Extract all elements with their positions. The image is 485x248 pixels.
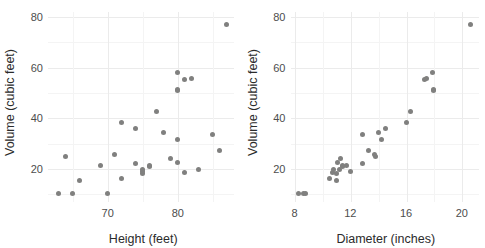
- data-point: [70, 191, 75, 196]
- gridline-major-vertical: [462, 12, 463, 202]
- gridline-minor-horizontal: [48, 144, 234, 145]
- x-axis-tick-labels: 7080: [48, 207, 234, 221]
- data-point: [133, 126, 138, 131]
- x-tick-label: 80: [163, 207, 193, 219]
- data-point: [63, 154, 68, 159]
- data-point: [327, 176, 332, 181]
- x-axis-title: Diameter (inches): [243, 232, 485, 246]
- data-point: [98, 163, 103, 168]
- data-point: [404, 120, 409, 125]
- data-point: [334, 178, 339, 183]
- data-point: [360, 161, 365, 166]
- gridline-major-horizontal: [48, 68, 234, 69]
- data-point: [468, 22, 473, 27]
- gridline-major-horizontal: [48, 17, 234, 18]
- data-point: [196, 167, 201, 172]
- y-axis-tick-labels: 20406080: [0, 12, 43, 202]
- gridline-major-vertical: [407, 12, 408, 202]
- data-point: [175, 137, 180, 142]
- y-tick-label: 40: [260, 113, 286, 124]
- gridline-minor-horizontal: [48, 42, 234, 43]
- data-point: [430, 70, 435, 75]
- data-point: [379, 137, 384, 142]
- gridline-minor-horizontal: [291, 144, 479, 145]
- data-point: [366, 148, 371, 153]
- plot-area-diameter: [291, 12, 479, 202]
- data-point: [360, 132, 365, 137]
- gridline-major-horizontal: [48, 118, 234, 119]
- figure-scatter-panels: Volume (cubic feet) 20406080 7080 Height…: [0, 0, 485, 248]
- data-point: [348, 169, 353, 174]
- data-point: [189, 76, 194, 81]
- gridline-major-horizontal: [291, 118, 479, 119]
- gridline-minor-vertical: [434, 12, 435, 202]
- data-point: [303, 191, 308, 196]
- gridline-major-horizontal: [291, 17, 479, 18]
- data-point: [344, 163, 349, 168]
- data-point: [383, 126, 388, 131]
- x-axis-tick-labels: 8121620: [291, 207, 479, 221]
- y-tick-label: 20: [260, 164, 286, 175]
- gridline-major-vertical: [178, 12, 179, 202]
- data-point: [334, 171, 339, 176]
- data-point: [56, 191, 61, 196]
- data-point: [224, 22, 229, 27]
- data-point: [373, 154, 378, 159]
- panel-volume-vs-diameter: Volume (cubic feet) 20406080 8121620 Dia…: [243, 0, 485, 248]
- gridline-minor-horizontal: [291, 42, 479, 43]
- data-point: [77, 178, 82, 183]
- gridline-minor-horizontal: [291, 93, 479, 94]
- data-point: [175, 70, 180, 75]
- x-tick-label: 8: [280, 207, 310, 219]
- gridline-minor-vertical: [323, 12, 324, 202]
- gridline-major-vertical: [295, 12, 296, 202]
- panel-volume-vs-height: Volume (cubic feet) 20406080 7080 Height…: [0, 0, 243, 248]
- data-point: [182, 77, 187, 82]
- data-point: [210, 132, 215, 137]
- data-point: [168, 156, 173, 161]
- y-tick-label: 20: [17, 164, 43, 175]
- data-point: [217, 148, 222, 153]
- data-point: [154, 109, 159, 114]
- gridline-minor-vertical: [213, 12, 214, 202]
- data-point: [112, 152, 117, 157]
- data-point: [175, 160, 180, 165]
- y-tick-label: 80: [17, 12, 43, 23]
- x-tick-label: 70: [93, 207, 123, 219]
- y-tick-label: 60: [260, 62, 286, 73]
- y-tick-label: 40: [17, 113, 43, 124]
- data-point: [408, 109, 413, 114]
- x-tick-label: 12: [335, 207, 365, 219]
- data-point: [105, 191, 110, 196]
- data-point: [182, 170, 187, 175]
- data-point: [133, 161, 138, 166]
- x-tick-label: 20: [447, 207, 477, 219]
- gridline-minor-horizontal: [291, 194, 479, 195]
- data-point: [338, 156, 343, 161]
- gridline-major-vertical: [108, 12, 109, 202]
- x-tick-label: 16: [391, 207, 421, 219]
- x-axis-title: Height (feet): [0, 232, 265, 246]
- gridline-major-horizontal: [291, 169, 479, 170]
- gridline-minor-vertical: [379, 12, 380, 202]
- data-point: [161, 130, 166, 135]
- gridline-major-horizontal: [291, 68, 479, 69]
- data-point: [424, 76, 429, 81]
- gridline-minor-horizontal: [48, 93, 234, 94]
- data-point: [376, 130, 381, 135]
- gridline-minor-vertical: [73, 12, 74, 202]
- y-tick-label: 60: [17, 62, 43, 73]
- data-point: [119, 120, 124, 125]
- data-point: [119, 176, 124, 181]
- gridline-minor-horizontal: [48, 194, 234, 195]
- y-axis-tick-labels: 20406080: [243, 12, 286, 202]
- plot-area-height: [48, 12, 234, 202]
- y-tick-label: 80: [260, 12, 286, 23]
